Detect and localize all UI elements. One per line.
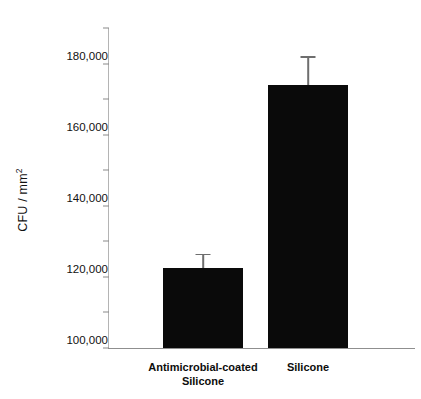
y-tick-mark [103, 276, 109, 277]
error-bar-stem [307, 56, 309, 84]
error-bar-cap [301, 56, 316, 57]
y-tick-mark [103, 312, 109, 313]
y-tick-label: 140,000 [46, 192, 108, 204]
x-category-label: Silicone [228, 361, 388, 375]
y-tick-label: 160,000 [46, 121, 108, 133]
y-tick-mark [103, 205, 109, 206]
error-bar [300, 56, 316, 84]
bar [268, 85, 348, 348]
y-tick-mark [103, 63, 109, 64]
y-tick-label: 180,000 [46, 50, 108, 62]
y-tick-mark [103, 28, 109, 29]
plot-area: 020,00040,00060,00080,000100,000120,0001… [0, 0, 421, 399]
bar [163, 268, 243, 348]
y-tick-mark [103, 170, 109, 171]
error-bar [195, 254, 211, 268]
x-axis-line [108, 348, 415, 349]
y-tick-mark [103, 134, 109, 135]
y-tick-mark [103, 99, 109, 100]
error-bar-stem [202, 254, 204, 268]
y-axis-line [108, 28, 109, 348]
y-tick-label: 100,000 [46, 334, 108, 346]
y-tick-mark [103, 241, 109, 242]
bar-chart-figure: CFU / mm2 020,00040,00060,00080,000100,0… [0, 0, 421, 399]
y-tick-label: 120,000 [46, 263, 108, 275]
y-tick-mark [103, 348, 109, 349]
error-bar-cap [196, 254, 211, 255]
